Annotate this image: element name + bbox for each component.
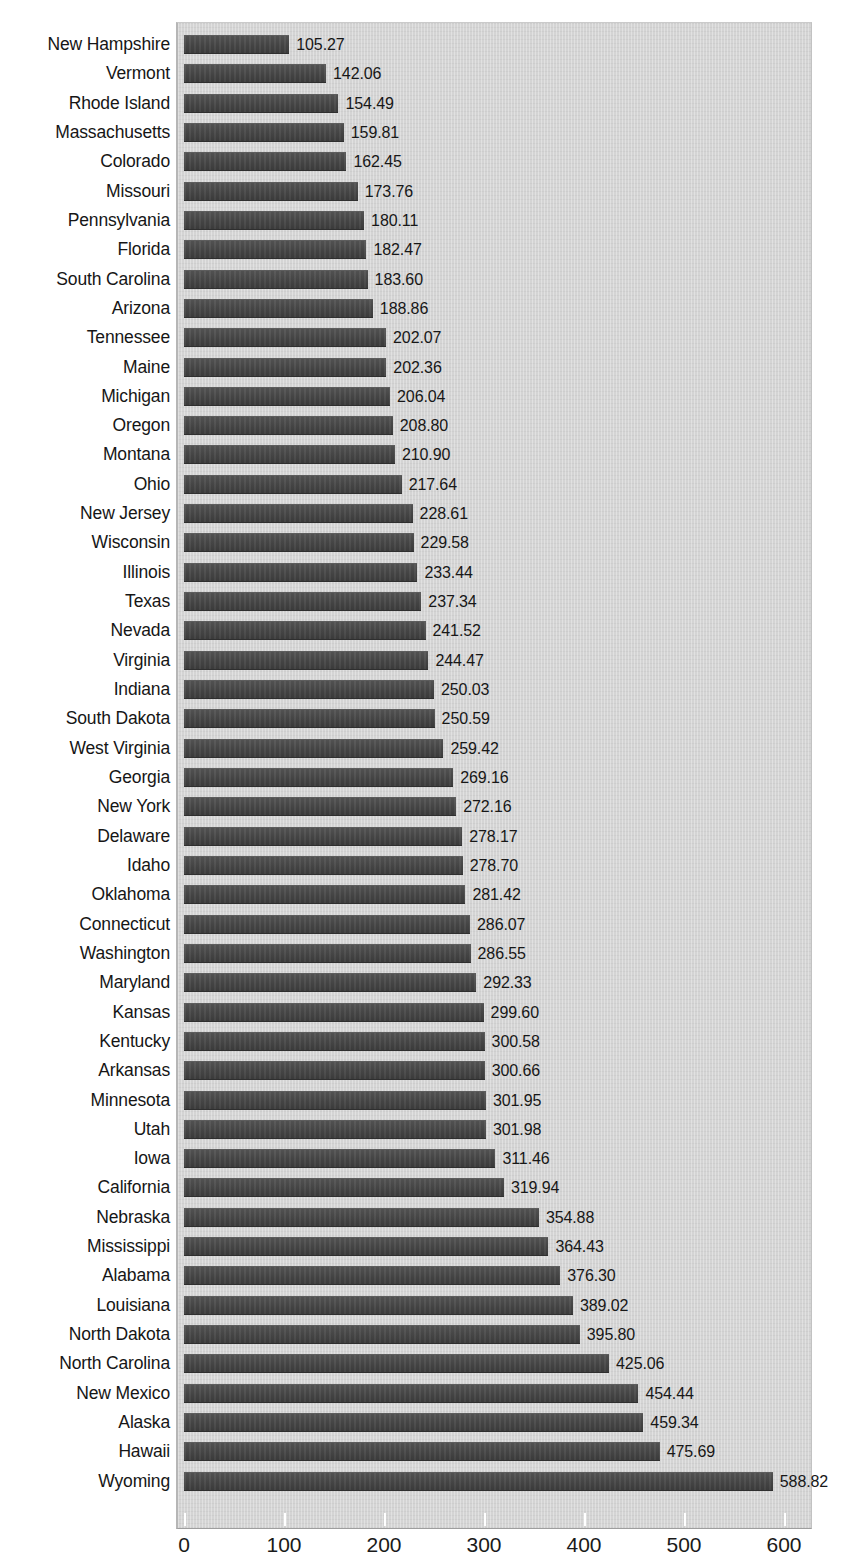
bar-row: Virginia244.47 bbox=[0, 646, 842, 675]
category-label: Nebraska bbox=[0, 1203, 170, 1232]
category-label: Georgia bbox=[0, 763, 170, 792]
bar-row: Delaware278.17 bbox=[0, 822, 842, 851]
bar-row: Oklahoma281.42 bbox=[0, 880, 842, 909]
bar-value-label: 299.60 bbox=[491, 1003, 539, 1022]
category-label: Maine bbox=[0, 353, 170, 382]
bar bbox=[184, 1120, 486, 1139]
bar-value-label: 459.34 bbox=[650, 1413, 698, 1432]
bar-value-label: 229.58 bbox=[421, 533, 469, 552]
bar-row: Connecticut286.07 bbox=[0, 910, 842, 939]
bar-row: Missouri173.76 bbox=[0, 177, 842, 206]
bar-value-label: 364.43 bbox=[555, 1237, 603, 1256]
bar-row: Wyoming588.82 bbox=[0, 1467, 842, 1496]
bar-row: Arkansas300.66 bbox=[0, 1056, 842, 1085]
category-label: California bbox=[0, 1173, 170, 1202]
bar bbox=[184, 1208, 539, 1227]
x-axis-tick-label: 200 bbox=[366, 1533, 401, 1557]
bar bbox=[184, 211, 364, 230]
x-axis-tick-label: 600 bbox=[766, 1533, 801, 1557]
x-axis-tick bbox=[184, 1513, 186, 1526]
category-label: Arkansas bbox=[0, 1056, 170, 1085]
bar-row: Alabama376.30 bbox=[0, 1261, 842, 1290]
bar-value-label: 454.44 bbox=[645, 1384, 693, 1403]
bar bbox=[184, 856, 463, 875]
bar-value-label: 425.06 bbox=[616, 1354, 664, 1373]
bar-row: Ohio217.64 bbox=[0, 470, 842, 499]
bar bbox=[184, 1091, 486, 1110]
category-label: Wisconsin bbox=[0, 528, 170, 557]
bar bbox=[184, 1442, 660, 1461]
category-label: Alabama bbox=[0, 1261, 170, 1290]
bar-value-label: 475.69 bbox=[667, 1442, 715, 1461]
category-label: Montana bbox=[0, 440, 170, 469]
category-label: Minnesota bbox=[0, 1086, 170, 1115]
bar-value-label: 588.82 bbox=[780, 1472, 828, 1491]
bar-row: New Jersey228.61 bbox=[0, 499, 842, 528]
bar-row: Nevada241.52 bbox=[0, 616, 842, 645]
bar bbox=[184, 94, 338, 113]
bar bbox=[184, 416, 393, 435]
bar bbox=[184, 915, 470, 934]
bar bbox=[184, 973, 476, 992]
category-label: Alaska bbox=[0, 1408, 170, 1437]
category-label: West Virginia bbox=[0, 734, 170, 763]
category-label: Virginia bbox=[0, 646, 170, 675]
category-label: Oregon bbox=[0, 411, 170, 440]
bar bbox=[184, 358, 386, 377]
bar bbox=[184, 533, 414, 552]
bar-value-label: 217.64 bbox=[409, 475, 457, 494]
bar bbox=[184, 1003, 484, 1022]
x-axis-tick bbox=[784, 1513, 786, 1526]
bar-value-label: 208.80 bbox=[400, 416, 448, 435]
bar bbox=[184, 944, 471, 963]
bar bbox=[184, 563, 417, 582]
bar bbox=[184, 1266, 560, 1285]
category-label: Rhode Island bbox=[0, 89, 170, 118]
bar bbox=[184, 739, 443, 758]
bar-row: Arizona188.86 bbox=[0, 294, 842, 323]
bar-value-label: 292.33 bbox=[483, 973, 531, 992]
bar-value-label: 180.11 bbox=[371, 211, 418, 230]
bar-value-label: 154.49 bbox=[345, 94, 393, 113]
x-axis-tick bbox=[284, 1513, 286, 1526]
bar-value-label: 278.70 bbox=[470, 856, 518, 875]
category-label: Idaho bbox=[0, 851, 170, 880]
category-label: Iowa bbox=[0, 1144, 170, 1173]
bar bbox=[184, 387, 390, 406]
bar bbox=[184, 1413, 643, 1432]
bar bbox=[184, 123, 344, 142]
bar bbox=[184, 270, 368, 289]
x-axis-tick-label: 300 bbox=[466, 1533, 501, 1557]
bar bbox=[184, 445, 395, 464]
bar-row: Nebraska354.88 bbox=[0, 1203, 842, 1232]
bar bbox=[184, 1032, 485, 1051]
category-label: Vermont bbox=[0, 59, 170, 88]
bar bbox=[184, 299, 373, 318]
bar-row: Idaho278.70 bbox=[0, 851, 842, 880]
bar-row: California319.94 bbox=[0, 1173, 842, 1202]
bar-value-label: 182.47 bbox=[373, 240, 421, 259]
category-label: Kentucky bbox=[0, 1027, 170, 1056]
x-axis-tick-label: 0 bbox=[178, 1533, 190, 1557]
bar-value-label: 269.16 bbox=[460, 768, 508, 787]
x-axis-tick bbox=[384, 1513, 386, 1526]
bar bbox=[184, 797, 456, 816]
bar-value-label: 206.04 bbox=[397, 387, 445, 406]
category-label: Hawaii bbox=[0, 1437, 170, 1466]
bar-row: New Hampshire105.27 bbox=[0, 30, 842, 59]
category-label: New York bbox=[0, 792, 170, 821]
category-label: Ohio bbox=[0, 470, 170, 499]
bar-value-label: 159.81 bbox=[351, 123, 399, 142]
bar bbox=[184, 182, 358, 201]
bar-row: Maryland292.33 bbox=[0, 968, 842, 997]
bar-value-label: 272.16 bbox=[463, 797, 511, 816]
x-axis-tick bbox=[584, 1513, 586, 1526]
category-label: Arizona bbox=[0, 294, 170, 323]
category-label: Delaware bbox=[0, 822, 170, 851]
bar-value-label: 319.94 bbox=[511, 1178, 559, 1197]
category-label: Pennsylvania bbox=[0, 206, 170, 235]
category-label: Nevada bbox=[0, 616, 170, 645]
horizontal-bar-chart: New Hampshire105.27Vermont142.06Rhode Is… bbox=[0, 0, 842, 1568]
category-label: Oklahoma bbox=[0, 880, 170, 909]
category-label: Utah bbox=[0, 1115, 170, 1144]
